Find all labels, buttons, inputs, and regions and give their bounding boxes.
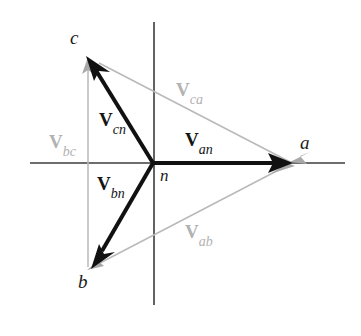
label-v-ca-symbol: V [176,79,190,100]
label-v-ab-subscript: ab [199,234,213,249]
label-v-an-subscript: an [199,142,213,157]
label-v-ca-subscript: ca [190,92,203,107]
label-v-cn-subscript: cn [113,122,126,137]
vector-v-ab-shaft [100,163,292,263]
phasor-diagram-figure: a b c n Van Vbn Vcn Vab Vbc Vca [0,0,361,336]
label-v-bn-symbol: V [97,173,111,194]
vector-v-bc [82,57,95,267]
vertex-label-c: c [70,28,78,47]
phasor-diagram-canvas [0,0,361,336]
origin-label-n: n [160,167,169,184]
label-v-ab-symbol: V [185,221,199,242]
label-v-bc-symbol: V [49,131,63,152]
vertex-label-b: b [78,272,88,291]
vector-v-an [153,153,293,173]
label-v-an-symbol: V [185,129,199,150]
label-v-bn: Vbn [97,174,125,198]
label-v-cn-symbol: V [99,109,113,130]
label-v-ab: Vab [185,222,213,246]
label-v-ca: Vca [176,80,203,104]
vertex-label-a: a [300,133,310,152]
label-v-cn: Vcn [99,110,126,134]
label-v-bc-subscript: bc [63,144,76,159]
label-v-bn-subscript: bn [111,186,125,201]
label-v-an: Van [185,130,213,154]
label-v-bc: Vbc [49,132,76,156]
